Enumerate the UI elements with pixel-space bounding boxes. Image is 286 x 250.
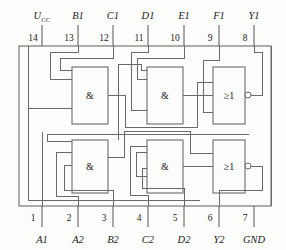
pin-number-9: 9	[208, 33, 213, 43]
top-signal-labels: UCC B1 C1 D1 E1 F1 Y1	[34, 10, 260, 24]
wire-f1-to-or1	[203, 46, 219, 112]
signal-label-c1: C1	[107, 10, 119, 21]
wire-and1a-out-to-or1	[108, 82, 213, 127]
gate-and-2b-symbol: &	[161, 161, 169, 172]
logic-diagram-figure: UCC B1 C1 D1 E1 F1 Y1 14 13 12 11 10 9 8	[0, 0, 286, 250]
bottom-pin-ticks	[42, 206, 254, 227]
gate-or-1: ≥1	[213, 67, 251, 124]
wire-and2a-out-to-or2	[108, 131, 213, 157]
gate-or-1-inverting-bubble-icon	[245, 92, 251, 98]
wire-or2-out-to-y2	[219, 166, 262, 206]
gate-and-1b: &	[147, 67, 183, 124]
gate-and-2a: &	[72, 140, 108, 193]
gate-or-2-inverting-bubble-icon	[245, 163, 251, 169]
pin-number-8: 8	[243, 33, 248, 43]
wire-and1b-in3	[141, 64, 147, 70]
signal-label-f1: F1	[212, 10, 225, 21]
gate-or-2: ≥1	[213, 140, 251, 193]
wire-c1-to-and1a	[60, 46, 113, 70]
wire-d1-to-and1b	[131, 46, 148, 110]
signal-label-y2: Y2	[213, 234, 225, 245]
signal-label-d2: D2	[177, 234, 192, 245]
signal-label-a1: A1	[35, 234, 48, 245]
signal-label-gnd: GND	[243, 234, 266, 245]
signal-label-e1: E1	[177, 10, 190, 21]
internal-wiring	[28, 46, 271, 206]
top-pin-numbers: 14 13 12 11 10 9 8	[28, 33, 247, 43]
gate-and-1a: &	[72, 67, 108, 124]
wire-b1-to-and1a	[50, 46, 78, 79]
pin-number-10: 10	[170, 33, 180, 43]
top-pin-ticks	[42, 25, 254, 46]
gate-and-1a-symbol: &	[86, 90, 94, 101]
wire-e1-to-and1b	[137, 46, 184, 79]
gate-or-2-symbol: ≥1	[224, 161, 235, 172]
bottom-pin-numbers: 1 2 3 4 5 6 7	[31, 213, 248, 223]
gate-and-2b: &	[147, 140, 183, 193]
wire-or1-out-to-y1	[251, 46, 262, 95]
pin-number-14: 14	[28, 33, 38, 43]
wire-vcc-rail	[28, 46, 200, 200]
signal-label-vcc: UCC	[34, 10, 51, 24]
signal-label-c2: C2	[142, 234, 155, 245]
pin-number-3: 3	[102, 213, 107, 223]
pin-number-6: 6	[208, 213, 213, 223]
bottom-signal-labels: A1 A2 B2 C2 D2 Y2 GND	[35, 234, 265, 245]
wire-and1b-in3b	[118, 64, 147, 70]
wire-a2-to-and2a	[56, 152, 78, 206]
signal-label-d1: D1	[141, 10, 155, 21]
gate-and-2a-symbol: &	[86, 161, 94, 172]
wire-midrail-to-and2a	[47, 134, 72, 141]
schematic-canvas: UCC B1 C1 D1 E1 F1 Y1 14 13 12 11 10 9 8	[0, 0, 286, 250]
gate-or-1-symbol: ≥1	[224, 90, 235, 101]
signal-label-y1: Y1	[248, 10, 259, 21]
gate-and-1b-symbol: &	[161, 90, 169, 101]
pin-number-1: 1	[31, 213, 36, 223]
pin-number-12: 12	[99, 33, 109, 43]
pin-number-11: 11	[134, 33, 143, 43]
signal-label-b2: B2	[107, 234, 119, 245]
pin-number-5: 5	[173, 213, 178, 223]
pin-number-2: 2	[67, 213, 72, 223]
pin-number-7: 7	[243, 213, 248, 223]
pin-number-13: 13	[64, 33, 74, 43]
pin-number-4: 4	[137, 213, 142, 223]
signal-label-a2: A2	[71, 234, 84, 245]
signal-label-b1: B1	[72, 10, 84, 21]
